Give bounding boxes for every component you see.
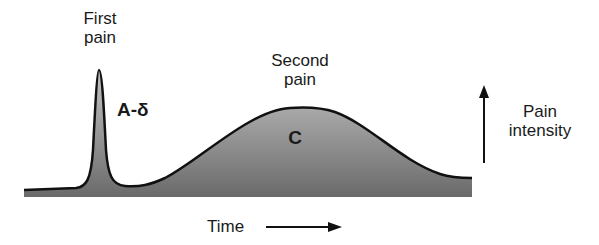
pain-intensity-label: Pain intensity: [495, 102, 585, 140]
pain-intensity-line2: intensity: [495, 121, 585, 140]
time-arrow-icon: [266, 222, 342, 232]
second-pain-line2: pain: [250, 70, 350, 89]
time-label: Time: [207, 217, 257, 236]
first-pain-line2: pain: [64, 28, 136, 47]
pain-intensity-line1: Pain: [495, 102, 585, 121]
a-delta-label: A-δ: [117, 100, 167, 119]
second-pain-label: Second pain: [250, 51, 350, 89]
first-pain-line1: First: [64, 9, 136, 28]
second-pain-line1: Second: [250, 51, 350, 70]
c-fiber-label: C: [283, 128, 307, 147]
pain-area-fill: [24, 70, 472, 197]
intensity-arrow-icon: [479, 85, 489, 163]
first-pain-label: First pain: [64, 9, 136, 47]
